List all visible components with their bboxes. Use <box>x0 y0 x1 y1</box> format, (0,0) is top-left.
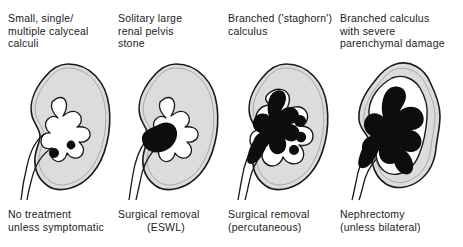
kidney-illustration-severe-damage <box>340 58 458 203</box>
header-line-1: Small, single/ <box>8 12 73 24</box>
kidney-illustration-staghorn <box>228 58 340 203</box>
kidney-stone-figure: Small, single/ multiple calyceal calculi <box>0 0 463 247</box>
caption-line-1: No treatment <box>8 208 71 220</box>
column-header: Branched ('staghorn') calculus <box>228 12 340 37</box>
column-caption: Nephrectomy (unless bilateral) <box>340 208 458 233</box>
header-line-3: calculi <box>8 37 39 49</box>
header-line-2: multiple calyceal <box>8 25 89 37</box>
calculus-stone <box>67 141 76 150</box>
figure-column-severe-damage: Branched calculus with severe parenchyma… <box>340 0 458 247</box>
calculus-stone <box>294 115 306 127</box>
kidney-illustration-pelvis-stone <box>118 58 228 203</box>
header-line-2: renal pelvis <box>118 25 174 37</box>
calculus-stone <box>289 145 299 155</box>
caption-line-1: Surgical removal <box>228 208 310 220</box>
header-line-2: with severe <box>340 25 395 37</box>
kidney-illustration-small-calculi <box>8 58 120 203</box>
caption-line-2: (unless bilateral) <box>340 221 458 234</box>
column-header: Branched calculus with severe parenchyma… <box>340 12 458 50</box>
figure-column-staghorn: Branched ('staghorn') calculus <box>228 0 340 247</box>
calculus-stone <box>49 148 59 158</box>
caption-line-1: Surgical removal <box>118 208 200 220</box>
header-line-1: Branched calculus <box>340 12 429 24</box>
header-line-3: stone <box>118 37 145 49</box>
header-line-1: Solitary large <box>118 12 182 24</box>
header-line-2: calculus <box>228 25 268 37</box>
header-line-1: Branched ('staghorn') <box>228 12 332 24</box>
column-caption: Surgical removal (percutaneous) <box>228 208 340 233</box>
figure-column-small-calculi: Small, single/ multiple calyceal calculi <box>8 0 120 247</box>
caption-line-2: (ESWL) <box>118 221 228 234</box>
caption-line-2: unless symptomatic <box>8 221 120 234</box>
caption-line-2: (percutaneous) <box>228 221 340 234</box>
calculus-stone <box>296 132 306 142</box>
caption-line-1: Nephrectomy <box>340 208 405 220</box>
column-header: Small, single/ multiple calyceal calculi <box>8 12 120 50</box>
column-header: Solitary large renal pelvis stone <box>118 12 228 50</box>
figure-column-pelvis-stone: Solitary large renal pelvis stone Surgic… <box>118 0 228 247</box>
header-line-3: parenchymal damage <box>340 37 445 49</box>
column-caption: No treatment unless symptomatic <box>8 208 120 233</box>
column-caption: Surgical removal (ESWL) <box>118 208 228 233</box>
